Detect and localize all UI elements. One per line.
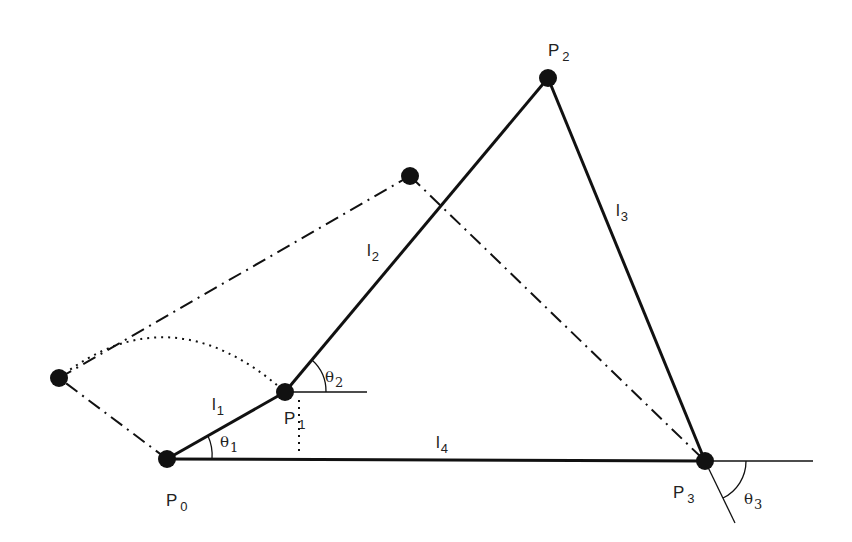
alt-link-l1 [59, 378, 167, 459]
theta1-arc [208, 436, 212, 459]
joint-p1-alternate [50, 369, 68, 387]
link-l3 [548, 78, 705, 461]
link-l2 [285, 78, 548, 392]
label-theta2: θ2 [325, 368, 343, 390]
label-p0: P0 [166, 491, 188, 514]
theta2-arc [312, 360, 326, 392]
alternate-configuration [59, 176, 705, 461]
l3-extension-line [705, 461, 735, 523]
joint-p2-alternate [401, 167, 419, 185]
joint-p1 [276, 383, 294, 401]
alt-link-l2 [59, 176, 410, 378]
label-theta1: θ1 [220, 433, 238, 455]
joint-p2 [539, 69, 557, 87]
four-bar-linkage-diagram: P0 P1 P2 P3 l1 l2 l3 l4 θ1 θ2 θ3 [0, 0, 852, 542]
link-l4-ground [167, 459, 705, 461]
label-l3: l3 [616, 201, 628, 224]
joint-p3 [696, 452, 714, 470]
theta3-arc [723, 461, 746, 498]
label-p2: P2 [548, 41, 570, 64]
joint-p0 [158, 450, 176, 468]
alt-link-l3 [410, 176, 705, 461]
label-theta3: θ3 [744, 490, 762, 512]
label-l2: l2 [367, 241, 379, 264]
label-p1: P1 [284, 409, 306, 432]
swing-arc-dotted [59, 337, 285, 392]
label-p3: P3 [673, 483, 695, 506]
label-l4: l4 [436, 433, 448, 456]
label-l1: l1 [212, 395, 224, 418]
